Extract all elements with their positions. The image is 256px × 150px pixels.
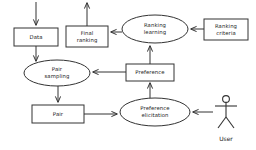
- node-ranking-criteria-label-line1: Ranking: [215, 23, 237, 30]
- node-pair-sampling-label-line2: sampling: [45, 73, 70, 80]
- diagram-svg: Data Final ranking Ranking learning Rank…: [0, 0, 256, 150]
- node-ranking-criteria[interactable]: Ranking criteria: [204, 19, 248, 40]
- node-final-ranking[interactable]: Final ranking: [66, 26, 108, 47]
- node-pair-sampling-label-line1: Pair: [52, 66, 63, 72]
- diagram-canvas: Data Final ranking Ranking learning Rank…: [0, 0, 256, 150]
- user-head-icon: [223, 96, 230, 103]
- node-pair-sampling[interactable]: Pair sampling: [24, 60, 90, 86]
- node-ranking-learning-label-line2: learning: [144, 29, 166, 36]
- node-preference[interactable]: Preference: [126, 64, 174, 81]
- node-preference-elicitation[interactable]: Preference elicitation: [120, 98, 190, 126]
- actor-user-label: User: [219, 135, 233, 142]
- node-preference-label: Preference: [135, 69, 164, 75]
- node-ranking-learning[interactable]: Ranking learning: [122, 15, 188, 43]
- node-final-ranking-label-line2: ranking: [77, 37, 98, 44]
- node-data-label: Data: [29, 34, 42, 40]
- actor-user[interactable]: User: [215, 96, 237, 142]
- node-final-ranking-label-line1: Final: [81, 30, 94, 36]
- node-pair-label: Pair: [53, 111, 64, 117]
- node-preference-elicitation-label-line2: elicitation: [141, 112, 168, 118]
- node-ranking-criteria-label-line2: criteria: [216, 30, 236, 36]
- user-left-leg-icon: [218, 117, 226, 128]
- node-pair[interactable]: Pair: [32, 105, 84, 123]
- user-right-leg-icon: [226, 117, 234, 128]
- node-ranking-learning-label-line1: Ranking: [144, 22, 166, 29]
- node-data[interactable]: Data: [14, 28, 58, 46]
- node-preference-elicitation-label-line1: Preference: [140, 105, 169, 111]
